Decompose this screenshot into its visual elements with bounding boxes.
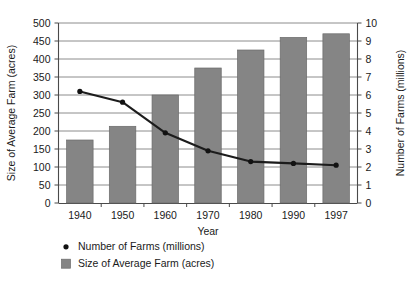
line-data-point (163, 130, 168, 135)
y-axis-left-tick-label: 100 (33, 161, 51, 173)
y-axis-left-tick-label: 400 (33, 53, 51, 65)
farm-statistics-chart: Size of Average Farm (acres) Number of F… (0, 0, 416, 283)
legend-marker-dot (63, 244, 68, 249)
x-axis-tick-label: 1960 (154, 209, 178, 221)
y-axis-left-tick-label: 300 (33, 89, 51, 101)
bar (237, 50, 263, 203)
y-axis-left-tick-label: 150 (33, 143, 51, 155)
y-axis-right-tick-label: 0 (366, 197, 372, 209)
legend-label: Number of Farms (millions) (78, 240, 205, 252)
y-axis-left-title: Size of Average Farm (acres) (5, 45, 17, 181)
y-axis-right-tick-label: 6 (366, 89, 372, 101)
bar (67, 140, 93, 203)
legend-label: Size of Average Farm (acres) (78, 257, 214, 269)
line-data-point (77, 89, 82, 94)
chart-container: Size of Average Farm (acres) Number of F… (0, 0, 416, 283)
y-axis-left-ticks: 050100150200250300350400450500 (33, 17, 59, 209)
y-axis-right-title-group: Number of Farms (millions) (394, 50, 406, 177)
y-axis-right-tick-label: 10 (366, 17, 378, 29)
y-axis-left-tick-label: 0 (45, 197, 51, 209)
y-axis-left-tick-label: 450 (33, 35, 51, 47)
y-axis-right-tick-label: 4 (366, 125, 372, 137)
bar (280, 37, 306, 203)
x-axis-tick-label: 1950 (111, 209, 135, 221)
x-axis-ticks: 1940195019601970198019901997 (68, 203, 348, 221)
x-axis-tick-label: 1980 (239, 209, 263, 221)
x-axis-tick-label: 1940 (68, 209, 92, 221)
bar (152, 95, 178, 203)
y-axis-right-tick-label: 7 (366, 71, 372, 83)
y-axis-right-tick-label: 5 (366, 107, 372, 119)
y-axis-left-tick-label: 500 (33, 17, 51, 29)
x-axis-title: Year (197, 225, 219, 237)
bar (323, 34, 349, 203)
y-axis-left-tick-label: 250 (33, 107, 51, 119)
y-axis-right-ticks: 012345678910 (358, 17, 378, 209)
y-axis-left-tick-label: 200 (33, 125, 51, 137)
line-data-point (291, 161, 296, 166)
y-axis-left-tick-label: 50 (39, 179, 51, 191)
legend-marker-square (62, 259, 71, 268)
x-axis-tick-label: 1997 (324, 209, 348, 221)
y-axis-right-title: Number of Farms (millions) (394, 50, 406, 177)
bar (109, 126, 135, 203)
y-axis-right-tick-label: 1 (366, 179, 372, 191)
y-axis-left-title-group: Size of Average Farm (acres) (5, 45, 17, 181)
line-data-point (248, 159, 253, 164)
line-data-point (205, 148, 210, 153)
line-data-point (120, 100, 125, 105)
y-axis-right-tick-label: 3 (366, 143, 372, 155)
bar (195, 68, 221, 203)
chart-legend: Number of Farms (millions)Size of Averag… (62, 240, 215, 269)
line-data-point (334, 163, 339, 168)
x-axis-tick-label: 1990 (282, 209, 306, 221)
y-axis-left-tick-label: 350 (33, 71, 51, 83)
x-axis-tick-label: 1970 (196, 209, 220, 221)
y-axis-right-tick-label: 2 (366, 161, 372, 173)
y-axis-right-tick-label: 9 (366, 35, 372, 47)
y-axis-right-tick-label: 8 (366, 53, 372, 65)
